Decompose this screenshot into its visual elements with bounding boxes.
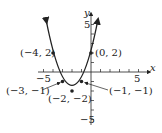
point-label-neg4-2: (−4, 2) xyxy=(20,48,55,58)
point-label-neg1-neg1: (−1, −1) xyxy=(109,86,153,96)
y-tick-neg5: −5 xyxy=(80,115,95,125)
y-axis-label: y xyxy=(84,8,90,18)
point-label-neg2-neg2: (−2, −2) xyxy=(48,94,92,104)
y-tick-pos5: 5 xyxy=(84,20,90,30)
x-tick-neg5: −5 xyxy=(36,74,51,84)
arrow-p5 xyxy=(86,83,108,90)
x-tick-pos5: 5 xyxy=(134,74,140,84)
point-label-neg3-neg1: (−3, −1) xyxy=(6,86,50,96)
x-axis-label: x xyxy=(150,63,156,73)
point-label-0-2: (0, 2) xyxy=(95,48,122,58)
